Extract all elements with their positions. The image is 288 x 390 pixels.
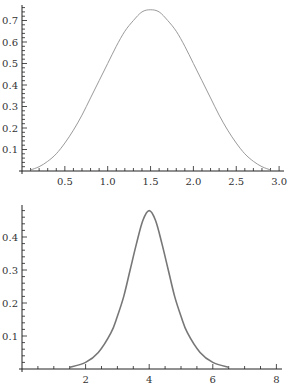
x-tick-label: 1.0 bbox=[100, 176, 116, 187]
y-tick-label: 0.6 bbox=[2, 37, 18, 48]
y-tick-label: 0.4 bbox=[2, 80, 18, 91]
y-tick-label: 0.3 bbox=[2, 101, 18, 112]
y-tick-label: 0.3 bbox=[2, 265, 18, 276]
data-curve bbox=[31, 10, 271, 170]
data-curve bbox=[70, 211, 229, 368]
x-tick-label: 3.0 bbox=[271, 176, 287, 187]
y-tick-label: 0.4 bbox=[2, 232, 18, 243]
x-tick-label: 6 bbox=[210, 374, 216, 385]
y-tick-label: 0.1 bbox=[2, 144, 18, 155]
bottom-chart: 24680.10.20.30.4 bbox=[2, 205, 282, 385]
top-chart: 0.51.01.52.02.53.00.10.20.30.40.50.60.7 bbox=[2, 5, 287, 187]
x-tick-label: 2 bbox=[82, 374, 88, 385]
y-tick-label: 0.2 bbox=[2, 123, 18, 134]
figure: 0.51.01.52.02.53.00.10.20.30.40.50.60.7 … bbox=[0, 0, 288, 390]
y-tick-label: 0.7 bbox=[2, 15, 18, 26]
y-tick-label: 0.2 bbox=[2, 298, 18, 309]
x-tick-label: 4 bbox=[146, 374, 152, 385]
x-tick-label: 1.5 bbox=[143, 176, 159, 187]
y-tick-label: 0.1 bbox=[2, 331, 18, 342]
y-tick-label: 0.5 bbox=[2, 58, 18, 69]
x-tick-label: 0.5 bbox=[57, 176, 73, 187]
x-tick-label: 8 bbox=[273, 374, 279, 385]
x-tick-label: 2.0 bbox=[185, 176, 201, 187]
x-tick-label: 2.5 bbox=[228, 176, 244, 187]
